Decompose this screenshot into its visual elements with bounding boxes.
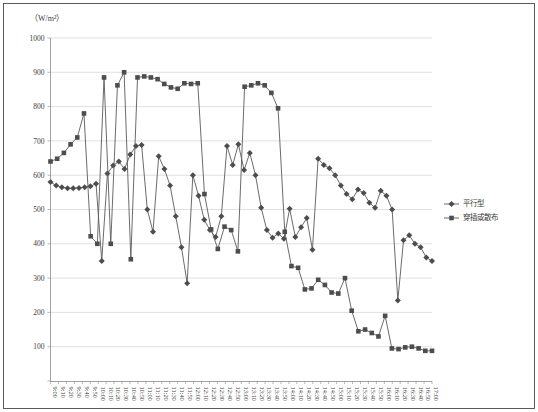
x-tick-label: 16:10	[394, 387, 401, 402]
x-tick-label: 17:00	[433, 387, 440, 402]
data-point-square	[410, 344, 415, 349]
data-point-square	[182, 81, 187, 86]
x-tick-label: 13:20	[259, 387, 266, 402]
x-tick-label: 11:50	[187, 387, 194, 401]
data-point-square	[222, 224, 227, 229]
irradiance-line-chart: （W/m²） 1002003004005006007008009001000 9…	[0, 0, 538, 412]
x-tick-label: 9:10	[60, 387, 67, 398]
x-tick-label: 11:20	[163, 387, 170, 401]
data-point-square	[390, 346, 395, 351]
x-tick-label: 10:30	[123, 387, 130, 402]
x-tick-label: 10:50	[139, 387, 146, 402]
data-point-square	[249, 83, 254, 88]
x-tick-label: 16:20	[402, 387, 409, 402]
x-tick-label: 11:30	[171, 387, 178, 401]
data-point-square	[62, 151, 67, 156]
data-point-square	[316, 278, 321, 283]
x-tick-label: 15:50	[378, 387, 385, 402]
data-point-square	[296, 266, 301, 271]
data-point-square	[430, 349, 435, 354]
y-tick-label: 400	[33, 239, 45, 248]
x-tick-label: 13:40	[274, 387, 281, 402]
x-tick-label: 11:10	[155, 387, 162, 401]
x-tick-label: 16:30	[410, 387, 417, 402]
data-point-square	[336, 291, 341, 296]
x-tick-label: 14:30	[314, 387, 321, 402]
x-axis-tick-labels: 9:009:109:209:309:409:5010:0010:1010:201…	[52, 387, 441, 402]
x-tick-label: 15:00	[338, 387, 345, 402]
data-point-square	[376, 334, 381, 339]
x-tick-label: 11:40	[179, 387, 186, 401]
data-point-square	[102, 75, 107, 80]
chart-background	[0, 0, 538, 412]
data-point-square	[95, 242, 100, 247]
x-tick-label: 16:50	[425, 387, 432, 402]
x-tick-label: 15:40	[370, 387, 377, 402]
data-point-square	[396, 347, 401, 352]
x-tick-label: 12:50	[235, 387, 242, 402]
data-point-square	[449, 216, 454, 221]
x-tick-label: 9:00	[52, 387, 59, 398]
data-point-square	[189, 82, 194, 87]
x-tick-label: 15:10	[346, 387, 353, 402]
data-point-square	[289, 264, 294, 269]
data-point-square	[115, 83, 120, 88]
data-point-square	[142, 74, 147, 79]
x-tick-label: 10:40	[131, 387, 138, 402]
data-point-square	[303, 287, 308, 292]
data-point-square	[202, 192, 207, 197]
data-point-square	[329, 290, 334, 295]
x-tick-label: 13:30	[266, 387, 273, 402]
data-point-square	[175, 86, 180, 91]
data-point-square	[343, 276, 348, 281]
y-tick-label: 1000	[30, 34, 45, 43]
x-tick-label: 14:40	[322, 387, 329, 402]
data-point-square	[262, 83, 267, 88]
x-tick-label: 14:50	[330, 387, 337, 402]
chart-container: （W/m²） 1002003004005006007008009001000 9…	[0, 0, 538, 412]
y-tick-label: 300	[33, 274, 45, 283]
data-point-square	[276, 106, 281, 111]
x-tick-label: 16:40	[418, 387, 425, 402]
y-tick-label: 900	[33, 68, 45, 77]
data-point-square	[169, 85, 174, 90]
data-point-square	[149, 75, 154, 80]
data-point-square	[256, 81, 261, 86]
y-axis-unit-label: （W/m²）	[30, 14, 64, 23]
data-point-square	[356, 329, 361, 334]
data-point-square	[75, 135, 80, 140]
data-point-square	[309, 286, 314, 291]
x-tick-label: 14:00	[290, 387, 297, 402]
data-point-square	[122, 70, 127, 75]
x-tick-label: 9:40	[84, 387, 91, 398]
data-point-square	[135, 75, 140, 80]
data-point-square	[383, 314, 388, 319]
x-tick-label: 9:20	[68, 387, 75, 398]
x-tick-label: 10:20	[115, 387, 122, 402]
x-tick-label: 10:10	[108, 387, 115, 402]
x-tick-label: 10:00	[100, 387, 107, 402]
data-point-square	[349, 308, 354, 313]
data-point-square	[55, 156, 60, 161]
data-point-square	[48, 159, 53, 164]
x-tick-label: 16:00	[386, 387, 393, 402]
data-point-square	[363, 327, 368, 332]
x-tick-label: 15:20	[354, 387, 361, 402]
x-tick-label: 13:50	[282, 387, 289, 402]
y-tick-label: 600	[33, 171, 45, 180]
x-tick-label: 13:10	[251, 387, 258, 402]
x-tick-label: 14:20	[306, 387, 313, 402]
x-tick-label: 9:30	[76, 387, 83, 398]
data-point-square	[236, 249, 241, 254]
data-point-square	[68, 142, 73, 147]
x-tick-label: 12:00	[195, 387, 202, 402]
data-point-square	[82, 111, 87, 116]
data-point-square	[403, 345, 408, 350]
data-point-square	[88, 234, 93, 239]
y-tick-label: 100	[33, 342, 45, 351]
data-point-square	[155, 77, 160, 82]
x-tick-label: 9:50	[92, 387, 99, 398]
x-tick-label: 12:10	[203, 387, 210, 402]
data-point-square	[423, 349, 428, 354]
data-point-square	[108, 242, 113, 247]
